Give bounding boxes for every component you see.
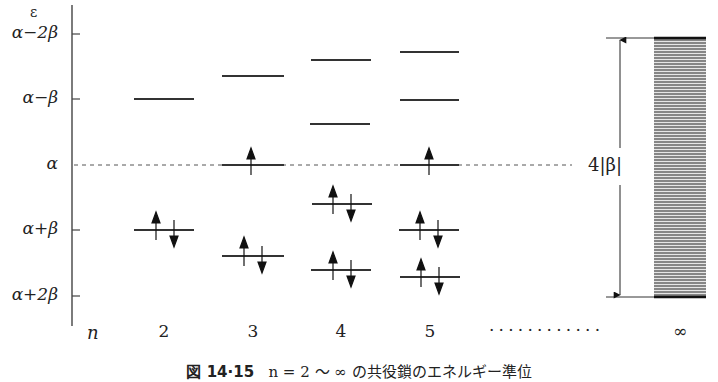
x-label-n4: 4 xyxy=(321,323,361,340)
energy-level-diagram: ε α−2β α−β α α+β α+2β n 2 3 4 5 ········… xyxy=(0,0,718,382)
ellipsis: ············ xyxy=(489,320,604,340)
tick-label-alpha-plus-beta: α+β xyxy=(22,220,58,237)
x-label-n5: 5 xyxy=(410,323,450,340)
caption-text: n = 2 〜 ∞ の共役鎖のエネルギー準位 xyxy=(268,363,531,381)
tick-label-alpha-minus-beta: α−β xyxy=(22,89,58,106)
band-width-label: 4|β| xyxy=(588,152,622,177)
x-label-n3: 3 xyxy=(233,323,273,340)
electron-spins xyxy=(152,148,443,294)
n-axis-label: n xyxy=(87,322,99,343)
x-label-infinity: ∞ xyxy=(660,323,700,340)
tick-label-alpha: α xyxy=(47,155,58,172)
x-label-n2: 2 xyxy=(144,323,184,340)
tick-label-alpha-plus-2beta: α+2β xyxy=(12,286,58,303)
y-axis-labels: α−2β α−β α α+β α+2β xyxy=(0,0,58,340)
caption-number: 図 14·15 xyxy=(186,363,254,381)
levels-n3 xyxy=(222,76,284,256)
figure-caption: 図 14·15 n = 2 〜 ∞ の共役鎖のエネルギー準位 xyxy=(0,360,718,381)
tick-label-alpha-minus-2beta: α−2β xyxy=(12,24,58,41)
